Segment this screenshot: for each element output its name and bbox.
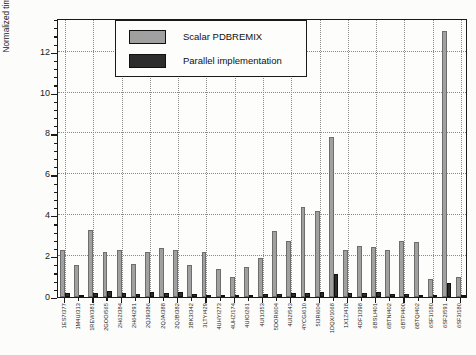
bar-scalar-6BTP/400 — [399, 241, 404, 297]
y-minor-tick — [54, 61, 58, 62]
bar-scalar-2QJ9/386 — [145, 252, 150, 297]
x-minor-tick — [248, 298, 249, 301]
x-tick-label-1DQX/1068: 1DQX/1068 — [329, 303, 335, 333]
x-tick-label-3LTY/429: 3LTY/429 — [202, 303, 208, 328]
x-tick-label-6BTP/400: 6BTP/400 — [400, 303, 406, 329]
bar-parallel-6SF1/180 — [433, 295, 438, 297]
bar-scalar-3LTY/429 — [202, 252, 207, 297]
bar-parallel-3LTY/429 — [206, 295, 211, 297]
bar-parallel-4DF1/398 — [362, 293, 367, 297]
vgridline — [433, 20, 434, 297]
bar-scalar-1REW/381 — [88, 230, 93, 297]
y-minor-tick — [54, 159, 58, 160]
legend-swatch-scalar — [129, 30, 166, 44]
bar-parallel-3BK3/342 — [192, 294, 197, 297]
y-major-tick — [51, 216, 57, 217]
y-minor-tick — [54, 282, 58, 283]
bar-scalar-2H62/384 — [117, 250, 122, 297]
x-tick-label-3BK3/342: 3BK3/342 — [188, 303, 194, 328]
vgridline — [65, 20, 66, 297]
x-major-tick — [149, 298, 150, 303]
vgridline — [320, 20, 321, 297]
bar-parallel-1X1Z/418 — [348, 293, 353, 297]
x-tick-label-2H64/291: 2H64/291 — [131, 303, 137, 328]
x-tick-label-4YCG/610: 4YCG/610 — [301, 303, 307, 330]
y-major-tick — [51, 53, 57, 54]
y-tick-label-12: 12 — [30, 47, 50, 57]
bar-parallel-4YCG/610 — [305, 293, 310, 297]
x-major-tick — [205, 298, 206, 303]
x-major-tick — [64, 298, 65, 303]
y-tick-label-2: 2 — [30, 251, 50, 261]
x-tick-label-4UI2/543: 4UI2/543 — [287, 303, 293, 327]
vgridline — [348, 20, 349, 297]
bar-parallel-6SF3/180 — [461, 295, 466, 297]
bar-scalar-4UHY/273 — [216, 269, 221, 297]
x-tick-label-6BSL/401: 6BSL/401 — [372, 303, 378, 328]
y-minor-tick — [54, 36, 58, 37]
y-minor-tick — [54, 102, 58, 103]
bar-parallel-4UI2/543 — [291, 293, 296, 297]
x-tick-label-2QJB/382: 2QJB/382 — [174, 303, 180, 329]
bar-parallel-1DQX/1068 — [334, 274, 339, 298]
x-minor-tick — [276, 298, 277, 301]
y-major-tick — [51, 298, 57, 299]
x-minor-tick — [418, 298, 419, 301]
bar-parallel-4UHY/273 — [221, 295, 226, 297]
bar-parallel-6BSL/401 — [376, 292, 381, 297]
bar-scalar-6SF2/591 — [442, 31, 447, 297]
bar-parallel-2H62/384 — [122, 293, 127, 297]
bar-parallel-2H64/291 — [136, 294, 141, 297]
bar-scalar-3BK3/342 — [187, 265, 192, 297]
x-major-tick — [290, 298, 291, 303]
y-minor-tick — [54, 265, 58, 266]
y-minor-tick — [54, 273, 58, 274]
x-tick-label-6BTN/402: 6BTN/402 — [386, 303, 392, 329]
y-minor-tick — [54, 200, 58, 201]
legend-item-scalar: Scalar PDBREMIX — [129, 29, 262, 44]
bar-scalar-5DOR/604 — [272, 231, 277, 297]
x-tick-label-1REW/381: 1REW/381 — [89, 303, 95, 331]
y-minor-tick — [54, 28, 58, 29]
bar-parallel-5I3R/604 — [320, 292, 325, 297]
bar-parallel-5DOR/604 — [277, 294, 282, 297]
y-minor-tick — [54, 126, 58, 127]
y-minor-tick — [54, 110, 58, 111]
y-tick-label-0: 0 — [30, 292, 50, 302]
bar-parallel-2GOO/565 — [107, 291, 112, 297]
x-minor-tick — [389, 298, 390, 301]
y-axis-title: Normalized time to lowest ASA calculatio… — [2, 0, 11, 52]
bar-scalar-6BSL/401 — [371, 247, 376, 297]
y-tick-label-8: 8 — [30, 128, 50, 138]
y-minor-tick — [54, 143, 58, 144]
bar-parallel-6BTP/400 — [404, 294, 409, 297]
x-tick-label-5I3R/604: 5I3R/604 — [315, 303, 321, 327]
bar-scalar-6SF3/180 — [456, 277, 461, 297]
bar-scalar-2H64/291 — [131, 264, 136, 297]
bar-scalar-6BTN/402 — [385, 250, 390, 297]
x-tick-label-1ES7/377: 1ES7/377 — [61, 303, 67, 328]
x-minor-tick — [220, 298, 221, 301]
legend-swatch-parallel — [129, 54, 166, 68]
y-tick-label-6: 6 — [30, 169, 50, 179]
bar-parallel-6BTN/402 — [390, 294, 395, 297]
y-minor-tick — [54, 85, 58, 86]
y-major-tick — [51, 134, 57, 135]
x-tick-label-4DF1/398: 4DF1/398 — [357, 303, 363, 328]
x-major-tick — [262, 298, 263, 303]
y-major-tick — [51, 94, 57, 95]
y-minor-tick — [54, 208, 58, 209]
x-minor-tick — [333, 298, 334, 301]
vgridline — [404, 20, 405, 297]
bar-scalar-4UI1/353 — [258, 258, 263, 297]
bar-scalar-4UI2/543 — [286, 241, 291, 297]
x-major-tick — [432, 298, 433, 303]
y-minor-tick — [54, 151, 58, 152]
x-minor-tick — [304, 298, 305, 301]
x-tick-label-2GOO/565: 2GOO/565 — [103, 303, 109, 331]
y-minor-tick — [54, 249, 58, 250]
bar-parallel-1M4U/313 — [79, 295, 84, 297]
y-minor-tick — [54, 118, 58, 119]
y-major-tick — [51, 257, 57, 258]
bar-scalar-2QJA/388 — [159, 248, 164, 297]
